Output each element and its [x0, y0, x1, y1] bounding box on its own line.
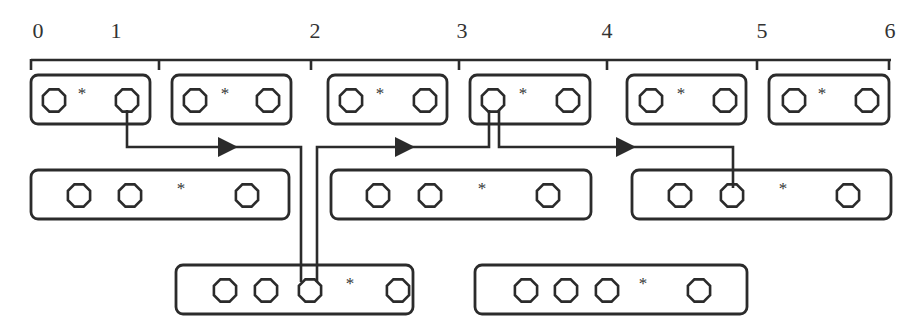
asterisk-marker: *	[639, 274, 648, 293]
scale-label: 6	[885, 18, 896, 43]
slot-circle-icon	[783, 89, 805, 111]
asterisk-marker: *	[818, 84, 827, 103]
asterisk-marker: *	[78, 84, 87, 103]
slot-circle-icon	[43, 89, 65, 111]
slot-circle-icon	[515, 279, 537, 301]
slot-circle-icon	[688, 279, 710, 301]
box-outline	[176, 265, 413, 314]
slot-circle-icon	[714, 89, 736, 111]
scale-label: 2	[310, 18, 321, 43]
slot-box: *	[475, 265, 747, 314]
slot-box: *	[172, 75, 291, 124]
slot-box: *	[627, 75, 746, 124]
slot-circle-icon	[387, 279, 409, 301]
scale-label: 3	[457, 18, 468, 43]
arrow-right-icon	[218, 137, 238, 157]
slot-circle-icon	[555, 279, 577, 301]
slot-circle-icon	[119, 184, 141, 206]
slot-circle-icon	[837, 184, 859, 206]
asterisk-marker: *	[221, 84, 230, 103]
slot-circle-icon	[414, 89, 436, 111]
scale-bar: 0123456	[31, 18, 896, 70]
row-2: ***	[31, 170, 891, 219]
asterisk-marker: *	[779, 179, 788, 198]
slot-box: *	[176, 265, 413, 314]
slot-circle-icon	[255, 279, 277, 301]
slot-circle-icon	[482, 89, 504, 111]
asterisk-marker: *	[346, 274, 355, 293]
slot-circle-icon	[557, 89, 579, 111]
slot-circle-icon	[596, 279, 618, 301]
asterisk-marker: *	[478, 179, 487, 198]
slot-circle-icon	[184, 89, 206, 111]
scale-label: 5	[757, 18, 768, 43]
slot-circle-icon	[367, 184, 389, 206]
slot-circle-icon	[236, 184, 258, 206]
slot-box: *	[769, 75, 889, 124]
row-1: ******	[31, 75, 889, 124]
slot-box: *	[331, 170, 591, 219]
scale-label: 1	[111, 18, 122, 43]
slot-circle-icon	[68, 184, 90, 206]
arrow-right-icon	[616, 137, 636, 157]
row-3: **	[176, 265, 747, 314]
scale-label: 0	[33, 18, 44, 43]
slot-box: *	[632, 170, 891, 219]
arrow-right-icon	[395, 137, 415, 157]
scale-label: 4	[602, 18, 613, 43]
slot-circle-icon	[669, 184, 691, 206]
asterisk-marker: *	[376, 84, 385, 103]
asterisk-marker: *	[177, 179, 186, 198]
slot-circle-icon	[299, 279, 321, 301]
slot-circle-icon	[537, 184, 559, 206]
asterisk-marker: *	[677, 84, 686, 103]
interval-diagram: 0123456 ***********	[0, 0, 922, 334]
slot-box: *	[31, 170, 289, 219]
slot-circle-icon	[640, 89, 662, 111]
slot-box: *	[328, 75, 447, 124]
asterisk-marker: *	[519, 84, 528, 103]
slot-circle-icon	[214, 279, 236, 301]
slot-circle-icon	[116, 89, 138, 111]
box-rows: ***********	[31, 75, 891, 314]
slot-circle-icon	[856, 89, 878, 111]
slot-circle-icon	[419, 184, 441, 206]
slot-box: *	[31, 75, 150, 124]
slot-circle-icon	[257, 89, 279, 111]
slot-circle-icon	[340, 89, 362, 111]
